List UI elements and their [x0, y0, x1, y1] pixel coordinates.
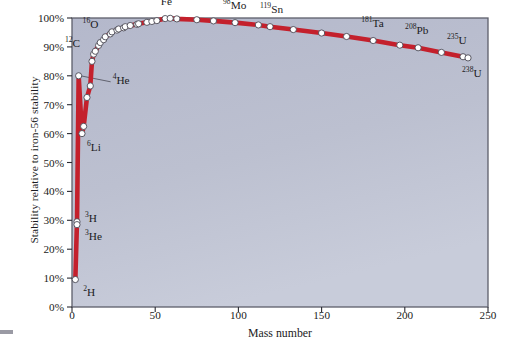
isotope-symbol: U: [473, 67, 481, 79]
isotope-mass-superscript: 208: [405, 22, 416, 31]
y-tick-label: 90%: [20, 41, 64, 53]
isotope-symbol: Mo: [231, 0, 247, 11]
isotope-symbol: He: [116, 74, 129, 86]
isotope-label-56Fe: 56Fe: [153, 0, 172, 7]
isotope-mass-superscript: 181: [361, 15, 372, 24]
y-tick-label: 80%: [20, 70, 64, 82]
isotope-symbol: H: [87, 286, 95, 298]
binding-energy-chart-figure: Stability relative to iron-56 stability …: [0, 0, 512, 351]
isotope-label-12C: 12C: [65, 38, 80, 49]
isotope-mass-superscript: 12: [65, 36, 73, 45]
isotope-label-235U: 235U: [447, 35, 467, 46]
y-tick-label: 10%: [20, 272, 64, 284]
x-axis-title: Mass number: [72, 326, 488, 341]
isotope-label-238U: 238U: [462, 68, 482, 79]
isotope-symbol: He: [89, 230, 102, 242]
isotope-mass-superscript: 56: [153, 0, 161, 2]
isotope-symbol: Fe: [161, 0, 172, 7]
isotope-symbol: C: [73, 37, 81, 49]
isotope-mass-superscript: 98: [223, 0, 231, 6]
y-tick-label: 30%: [20, 214, 64, 226]
y-tick-label: 70%: [20, 99, 64, 111]
isotope-mass-superscript: 238: [462, 65, 473, 74]
isotope-symbol: Li: [91, 141, 101, 153]
x-tick-label: 100: [218, 309, 258, 321]
isotope-mass-superscript: 119: [260, 1, 271, 10]
y-tick-label: 40%: [20, 185, 64, 197]
y-tick-label: 60%: [20, 128, 64, 140]
isotope-label-6Li: 6Li: [87, 142, 101, 153]
x-tick-label: 250: [468, 309, 508, 321]
y-tick-label: 100%: [20, 12, 64, 24]
y-tick-label: 50%: [20, 157, 64, 169]
page-edge-mark: [0, 330, 13, 334]
isotope-symbol: Sn: [271, 3, 283, 15]
chart-plot-svg: [0, 0, 512, 351]
isotope-symbol: U: [458, 34, 466, 46]
isotope-symbol: Pb: [417, 24, 429, 36]
isotope-symbol: Ta: [373, 17, 384, 29]
x-tick-label: 200: [385, 309, 425, 321]
x-tick-label: 150: [302, 309, 342, 321]
isotope-label-98Mo: 98Mo: [223, 0, 246, 11]
isotope-label-16O: 16O: [83, 19, 99, 30]
x-tick-label: 50: [135, 309, 175, 321]
isotope-mass-superscript: 235: [447, 32, 458, 41]
isotope-label-3He: 3He: [85, 231, 102, 242]
isotope-symbol: H: [89, 212, 97, 224]
isotope-label-2H: 2H: [83, 287, 95, 298]
isotope-label-4He: 4He: [113, 75, 130, 86]
x-tick-label: 0: [52, 309, 92, 321]
isotope-label-119Sn: 119Sn: [260, 4, 283, 15]
isotope-label-3H: 3H: [85, 213, 97, 224]
isotope-label-181Ta: 181Ta: [361, 18, 384, 29]
y-tick-label: 20%: [20, 243, 64, 255]
isotope-label-208Pb: 208Pb: [405, 25, 428, 36]
isotope-symbol: O: [90, 18, 98, 30]
